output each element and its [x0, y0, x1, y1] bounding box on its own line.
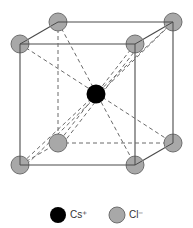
legend-cs-symbol	[50, 207, 66, 223]
cscl-unit-cell-diagram	[0, 0, 193, 228]
legend-cl-symbol	[109, 207, 125, 223]
cs-atom-center	[87, 85, 106, 104]
cl-atom-back-bottom-left	[49, 134, 67, 152]
legend-cs-label: Cs⁺	[70, 209, 87, 221]
legend-cl-label: Cl⁻	[129, 209, 143, 221]
